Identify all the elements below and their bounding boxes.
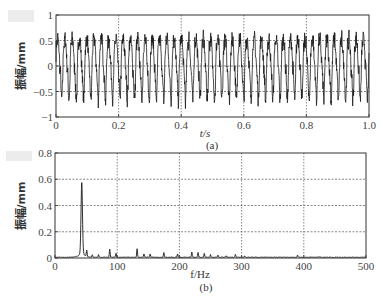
y-tick-label: 1 [48, 9, 54, 21]
time-signal-line [56, 30, 369, 109]
x-tick-label: 0.8 [300, 119, 314, 131]
figure: 00.20.40.60.81.0 10.50−0.5−1 t/s (a) 振幅/… [0, 0, 384, 304]
x-tick-label: 0.4 [174, 119, 188, 131]
x-axis-label-b: f/Hz [190, 268, 210, 280]
y-ticks-a: 10.50−0.5−1 [33, 9, 59, 123]
y-tick-label: 0.6 [38, 173, 52, 185]
x-tick-label: 1.0 [362, 119, 376, 131]
time-domain-chart: 00.20.40.60.81.0 10.50−0.5−1 t/s (a) 振幅/… [14, 9, 376, 152]
x-tick-label: 100 [109, 260, 126, 272]
x-tick-label: 0 [52, 260, 58, 272]
x-tick-label: 500 [358, 260, 375, 272]
x-tick-label: 0.2 [112, 119, 126, 131]
grid-b [55, 153, 366, 258]
spectrum-line [55, 183, 366, 258]
x-axis-label-a: t/s [200, 127, 210, 139]
x-tick-label: 400 [296, 260, 313, 272]
caption-a: (a) [206, 139, 219, 152]
y-tick-label: 0.2 [38, 226, 52, 238]
y-tick-label: 0.5 [39, 35, 53, 47]
y-axis-label-a: 振幅/mm [14, 42, 28, 91]
spectrum-chart: 0100200300400500 0.80.60.40.20 f/Hz (b) … [14, 147, 375, 294]
caption-b: (b) [200, 281, 213, 294]
y-tick-label: 0.4 [38, 200, 52, 212]
y-tick-label: −0.5 [33, 86, 53, 98]
x-tick-label: 0 [53, 119, 59, 131]
y-tick-label: 0.8 [38, 147, 52, 159]
y-tick-label: 0 [47, 252, 53, 264]
y-tick-label: −1 [41, 111, 53, 123]
y-axis-label-b: 振幅/mm [14, 182, 28, 231]
x-tick-label: 300 [233, 260, 250, 272]
x-tick-label: 0.6 [237, 119, 251, 131]
x-tick-label: 200 [171, 260, 188, 272]
y-tick-label: 0 [48, 60, 54, 72]
